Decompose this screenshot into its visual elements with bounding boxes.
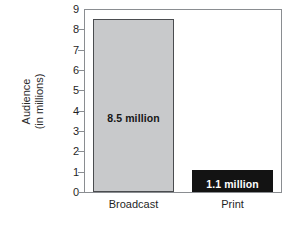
- bar-chart-figure: Audience (in millions) 0123456789 8.5 mi…: [0, 0, 290, 229]
- y-axis-tick-labels: 0123456789: [60, 0, 82, 229]
- y-axis-tick-label: 7: [61, 44, 79, 55]
- y-axis-tick-mark: [78, 172, 84, 173]
- bar-value-label-print: 1.1 million: [193, 178, 272, 190]
- y-axis-tick-label: 6: [61, 65, 79, 76]
- y-axis-tick-mark: [78, 90, 84, 91]
- y-axis-tick-label: 4: [61, 105, 79, 116]
- y-axis-tick-label: 2: [61, 146, 79, 157]
- y-axis-title: Audience (in millions): [0, 0, 62, 201]
- y-axis-tick-mark: [78, 111, 84, 112]
- x-axis-line: [84, 192, 282, 193]
- bar-broadcast: 8.5 million: [93, 19, 174, 192]
- plot-area: 8.5 million 1.1 million: [84, 9, 282, 192]
- y-axis-tick-mark: [78, 29, 84, 30]
- y-axis-title-line2: (in millions): [33, 74, 46, 130]
- y-axis-tick-mark: [78, 192, 84, 193]
- y-axis-tick-mark: [78, 151, 84, 152]
- y-axis-tick-mark: [78, 70, 84, 71]
- x-axis-category-broadcast: Broadcast: [84, 198, 183, 211]
- bar-print: 1.1 million: [192, 170, 273, 192]
- y-axis-tick-label: 9: [61, 4, 79, 15]
- y-axis-title-text: Audience (in millions): [21, 72, 46, 130]
- bar-value-label-broadcast: 8.5 million: [94, 112, 173, 124]
- y-axis-tick-label: 3: [61, 126, 79, 137]
- y-axis-title-line1: Audience: [21, 74, 34, 130]
- x-axis-category-print: Print: [183, 198, 282, 211]
- y-axis-tick-label: 0: [61, 187, 79, 198]
- y-axis-tick-mark: [78, 50, 84, 51]
- y-axis-tick-label: 5: [61, 85, 79, 96]
- y-axis-tick-mark: [78, 131, 84, 132]
- y-axis-tick-label: 8: [61, 24, 79, 35]
- y-axis-tick-label: 1: [61, 166, 79, 177]
